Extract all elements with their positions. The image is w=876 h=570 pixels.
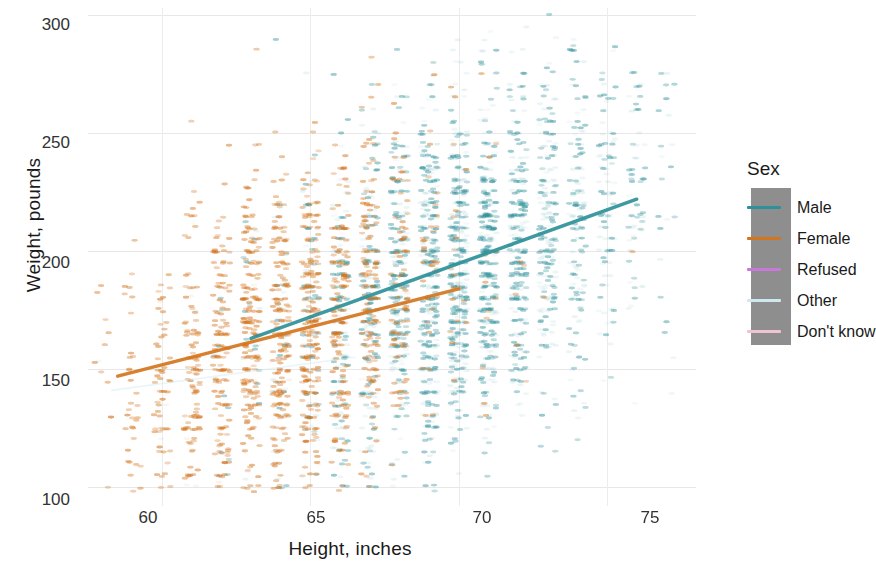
legend-line-glyph [747, 206, 781, 209]
y-tick-label: 200 [24, 253, 70, 273]
y-tick-label: 150 [24, 371, 70, 391]
legend-swatch [744, 192, 784, 223]
legend-swatch [744, 316, 784, 347]
trend-line-male [251, 199, 637, 338]
y-tick-label: 300 [24, 15, 70, 35]
legend-line-glyph [747, 237, 781, 240]
legend-entry[interactable]: Male [744, 192, 870, 223]
legend-entry-label: Male [797, 199, 832, 217]
legend-entry-label: Female [797, 230, 850, 248]
legend-title: Sex [747, 158, 870, 180]
legend: Sex MaleFemaleRefusedOtherDon't know [744, 158, 870, 347]
legend-swatch [744, 285, 784, 316]
legend-entry[interactable]: Refused [744, 254, 870, 285]
legend-swatch [744, 223, 784, 254]
x-tick-75: 75 [630, 508, 670, 528]
legend-entry[interactable]: Other [744, 285, 870, 316]
trend-line-layer [88, 8, 696, 506]
legend-entry-label: Refused [797, 261, 857, 279]
x-tick-65: 65 [296, 508, 336, 528]
y-tick-label: 100 [24, 490, 70, 510]
legend-entry[interactable]: Don't know [744, 316, 870, 347]
legend-entries: MaleFemaleRefusedOtherDon't know [744, 192, 870, 347]
plot-panel [88, 8, 696, 506]
x-tick-60: 60 [128, 508, 168, 528]
legend-line-glyph [747, 268, 781, 271]
x-axis-title: Height, inches [170, 538, 530, 560]
trend-line-other [112, 357, 355, 390]
legend-entry[interactable]: Female [744, 223, 870, 254]
trend-line-female [118, 289, 459, 376]
legend-line-glyph [747, 299, 781, 302]
legend-swatch [744, 254, 784, 285]
legend-entry-label: Don't know [797, 323, 876, 341]
legend-line-glyph [747, 330, 781, 333]
x-tick-70: 70 [462, 508, 502, 528]
y-tick-label: 250 [24, 133, 70, 153]
legend-entry-label: Other [797, 292, 837, 310]
